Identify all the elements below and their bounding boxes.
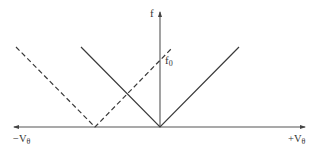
y-axis-label: f [150,7,154,19]
x-right-label: +Vθ [288,133,306,146]
diagram-canvas: f f0 −Vθ +Vθ [0,0,321,149]
f0-label: f0 [165,54,173,68]
x-left-label: −Vθ [13,133,31,146]
